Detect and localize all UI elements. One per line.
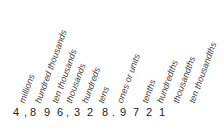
digit: 7 <box>133 106 139 118</box>
digit: 9 <box>44 106 50 118</box>
separator: . <box>112 106 115 118</box>
digit: 8 <box>102 106 108 118</box>
separator: , <box>24 106 27 118</box>
digit: 6 <box>57 106 63 118</box>
digit: 8 <box>30 106 36 118</box>
place-value-label: ones or units <box>115 53 142 105</box>
digit: 3 <box>74 106 80 118</box>
separator: , <box>66 106 69 118</box>
digit: 1 <box>159 106 165 118</box>
digit: 9 <box>120 106 126 118</box>
digit: 2 <box>146 106 152 118</box>
digit: 4 <box>13 106 19 118</box>
digit: 2 <box>87 106 93 118</box>
place-value-label: tens <box>96 85 111 104</box>
